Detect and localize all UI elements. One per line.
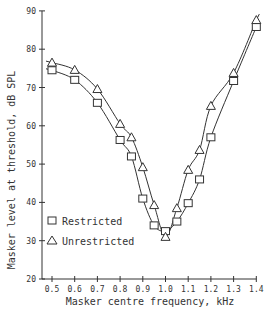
- square-marker-icon: [48, 67, 56, 74]
- y-tick-label: 60: [26, 122, 36, 131]
- triangle-marker-icon: [184, 165, 193, 173]
- triangle-marker-icon: [116, 119, 125, 127]
- x-tick-label: 0.6: [67, 285, 82, 294]
- square-marker-icon: [150, 222, 158, 229]
- y-tick-label: 90: [26, 7, 36, 16]
- square-marker-icon: [252, 23, 260, 30]
- masking-chart: 20304050607080900.50.60.70.80.91.01.11.2…: [0, 0, 271, 320]
- x-tick-label: 1.2: [204, 285, 219, 294]
- triangle-marker-icon: [195, 145, 204, 153]
- x-tick-label: 1.0: [158, 285, 173, 294]
- square-marker-icon: [71, 76, 79, 83]
- legend-label-restricted: Restricted: [62, 216, 122, 227]
- y-tick-label: 80: [26, 45, 36, 54]
- y-tick-label: 50: [26, 160, 36, 169]
- square-marker-icon: [93, 99, 101, 106]
- triangle-marker-icon: [127, 133, 136, 141]
- triangle-marker-icon: [150, 201, 159, 209]
- x-axis-label: Masker centre frequency, kHz: [66, 296, 235, 307]
- triangle-marker-icon: [138, 163, 147, 171]
- triangle-marker-icon: [206, 101, 215, 109]
- square-marker-icon: [173, 218, 181, 225]
- x-tick-label: 0.5: [45, 285, 60, 294]
- x-tick-label: 0.8: [113, 285, 128, 294]
- x-tick-label: 0.9: [136, 285, 151, 294]
- legend: Restricted Unrestricted: [47, 216, 134, 247]
- square-marker-icon: [207, 134, 215, 141]
- square-marker-icon: [196, 176, 204, 183]
- triangle-marker-icon: [252, 16, 261, 24]
- triangle-marker-icon: [70, 65, 79, 73]
- square-marker-icon: [139, 195, 147, 202]
- data-markers: [48, 16, 261, 241]
- x-tick-label: 1.1: [181, 285, 196, 294]
- legend-label-unrestricted: Unrestricted: [62, 236, 134, 247]
- y-tick-label: 70: [26, 84, 36, 93]
- square-marker-icon: [230, 77, 238, 84]
- y-tick-label: 20: [26, 275, 36, 284]
- x-tick-label: 1.3: [226, 285, 241, 294]
- legend-triangle-icon: [47, 236, 57, 244]
- y-tick-label: 30: [26, 237, 36, 246]
- square-marker-icon: [116, 136, 124, 143]
- x-tick-label: 1.4: [249, 285, 264, 294]
- x-tick-label: 0.7: [90, 285, 105, 294]
- triangle-marker-icon: [172, 204, 181, 212]
- y-axis-label: Masker level at threshold, dB SPL: [6, 71, 17, 270]
- y-tick-label: 40: [26, 198, 36, 207]
- square-marker-icon: [127, 153, 135, 160]
- square-marker-icon: [184, 200, 192, 207]
- axes: 20304050607080900.50.60.70.80.91.01.11.2…: [26, 7, 263, 294]
- legend-square-icon: [48, 217, 56, 224]
